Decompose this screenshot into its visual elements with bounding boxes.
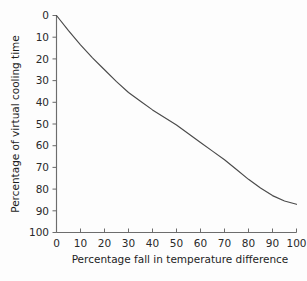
x-tick-label: 10 — [74, 237, 87, 249]
y-tick-label: 90 — [36, 205, 49, 217]
x-tick-label: 100 — [286, 237, 306, 249]
chart-figure: 0 10 20 30 40 50 60 70 80 90 100 — [0, 0, 307, 281]
y-tick-label: 30 — [36, 74, 49, 86]
x-axis-ticks — [57, 228, 297, 233]
x-tick-label: 70 — [218, 237, 231, 249]
y-axis-ticks — [53, 16, 57, 233]
y-tick-label: 70 — [36, 161, 49, 173]
y-tick-label: 60 — [36, 139, 49, 151]
x-axis-tick-labels: 0 10 20 30 40 50 60 70 80 90 100 — [53, 237, 306, 249]
x-tick-label: 50 — [170, 237, 183, 249]
x-tick-label: 60 — [194, 237, 207, 249]
y-tick-label: 0 — [42, 9, 49, 21]
line-chart: 0 10 20 30 40 50 60 70 80 90 100 — [0, 0, 307, 281]
y-tick-label: 50 — [36, 118, 49, 130]
data-curve — [57, 16, 297, 205]
x-tick-label: 30 — [122, 237, 135, 249]
x-axis-title: Percentage fall in temperature differenc… — [72, 253, 289, 265]
y-tick-label: 10 — [36, 31, 49, 43]
y-axis-title: Percentage of virtual cooling time — [9, 35, 21, 213]
x-tick-label: 80 — [242, 237, 255, 249]
y-tick-label: 40 — [36, 96, 49, 108]
x-tick-label: 90 — [266, 237, 279, 249]
y-tick-label: 20 — [36, 53, 49, 65]
x-tick-label: 40 — [146, 237, 159, 249]
y-tick-label: 80 — [36, 183, 49, 195]
x-tick-label: 20 — [98, 237, 111, 249]
x-tick-label: 0 — [53, 237, 60, 249]
y-axis-tick-labels: 0 10 20 30 40 50 60 70 80 90 100 — [29, 9, 49, 238]
y-tick-label: 100 — [29, 226, 49, 238]
